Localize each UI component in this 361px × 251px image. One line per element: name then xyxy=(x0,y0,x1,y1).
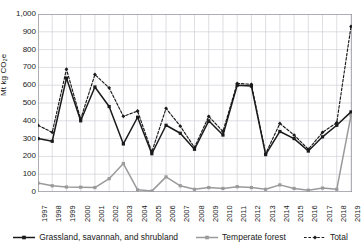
data-point xyxy=(193,148,196,151)
x-axis-tick-label: 2011 xyxy=(240,206,248,222)
data-point xyxy=(136,188,139,191)
data-point xyxy=(207,186,210,189)
legend-marker-icon xyxy=(13,233,35,242)
data-point xyxy=(93,85,96,88)
x-axis-tick-label: 1997 xyxy=(41,205,49,222)
x-axis-tick-label: 2002 xyxy=(112,205,120,222)
y-axis-ticks: 01002003004005006007008009001,000 xyxy=(0,0,36,210)
legend-marker-icon xyxy=(196,233,218,242)
data-point xyxy=(65,76,68,79)
x-axis-tick-label: 2017 xyxy=(326,205,334,222)
chart-svg xyxy=(38,14,352,192)
data-point xyxy=(221,187,224,190)
legend-item: Total xyxy=(304,232,348,242)
x-axis-tick-label: 2016 xyxy=(311,205,319,222)
y-axis-tick-label: 300 xyxy=(4,135,36,143)
x-axis-tick-label: 2012 xyxy=(254,205,262,222)
x-axis-tick-label: 2009 xyxy=(212,205,220,222)
data-point xyxy=(108,105,111,108)
data-point xyxy=(207,119,210,122)
y-axis-tick-label: 1,000 xyxy=(4,10,36,18)
data-point xyxy=(221,133,224,136)
data-point xyxy=(349,114,352,117)
x-axis-tick-label: 2019 xyxy=(354,205,361,222)
data-point xyxy=(122,162,125,165)
data-point xyxy=(122,142,125,145)
y-axis-tick-label: 200 xyxy=(4,152,36,160)
data-point xyxy=(164,124,167,127)
data-point xyxy=(307,189,310,192)
legend-label: Grassland, savannah, and shrubland xyxy=(39,232,178,242)
data-point xyxy=(136,116,139,119)
data-point xyxy=(150,190,153,192)
legend-label: Temperate forest xyxy=(222,232,286,242)
x-axis-tick-label: 2007 xyxy=(183,205,191,222)
y-axis-tick-label: 0 xyxy=(4,188,36,196)
data-point xyxy=(250,84,253,87)
data-point xyxy=(51,184,54,187)
x-axis-tick-label: 2004 xyxy=(141,205,149,222)
data-point xyxy=(236,84,239,87)
y-axis-tick-label: 100 xyxy=(4,170,36,178)
data-point xyxy=(278,183,281,186)
x-axis-tick-label: 1999 xyxy=(69,205,77,222)
data-point xyxy=(79,186,82,189)
data-point xyxy=(93,186,96,189)
x-axis-tick-label: 2001 xyxy=(98,205,106,222)
data-point xyxy=(335,124,338,127)
data-point xyxy=(108,177,111,180)
x-axis-ticks: 1997199819992000200120022003200420052006… xyxy=(38,196,352,226)
data-point xyxy=(278,130,281,133)
legend-marker-icon xyxy=(304,233,326,242)
data-point xyxy=(349,110,352,113)
data-point xyxy=(335,188,338,191)
x-axis-tick-label: 2000 xyxy=(84,205,92,222)
data-point xyxy=(193,188,196,191)
y-axis-tick-label: 700 xyxy=(4,63,36,71)
data-point xyxy=(292,137,295,140)
x-axis-tick-label: 2013 xyxy=(269,205,277,222)
legend-item: Grassland, savannah, and shrubland xyxy=(13,232,178,242)
data-point xyxy=(321,135,324,138)
data-point xyxy=(79,119,82,122)
y-axis-tick-label: 800 xyxy=(4,46,36,54)
y-axis-tick-label: 600 xyxy=(4,81,36,89)
data-point xyxy=(38,182,40,185)
x-axis-tick-label: 2005 xyxy=(155,205,163,222)
chart-container: Mt kg CO₂e 01002003004005006007008009001… xyxy=(0,0,361,251)
y-axis-tick-label: 500 xyxy=(4,99,36,107)
data-point xyxy=(150,152,153,155)
y-axis-tick-label: 900 xyxy=(4,28,36,36)
x-axis-tick-label: 2014 xyxy=(283,205,291,222)
x-axis-tick-label: 2018 xyxy=(340,205,348,222)
data-point xyxy=(38,137,40,140)
x-axis-tick-label: 1998 xyxy=(55,205,63,222)
legend-label: Total xyxy=(330,232,348,242)
data-point xyxy=(321,186,324,189)
x-axis-tick-label: 2010 xyxy=(226,205,234,222)
data-point xyxy=(236,185,239,188)
x-axis-tick-label: 2008 xyxy=(198,205,206,222)
data-point xyxy=(179,184,182,187)
data-point xyxy=(264,188,267,191)
legend-item: Temperate forest xyxy=(196,232,286,242)
data-point xyxy=(264,153,267,156)
x-axis-tick-label: 2003 xyxy=(126,205,134,222)
data-point xyxy=(51,140,54,143)
chart-legend: Grassland, savannah, and shrublandTemper… xyxy=(0,228,361,246)
data-point xyxy=(250,186,253,189)
data-point xyxy=(179,132,182,135)
data-point xyxy=(65,185,68,188)
data-point xyxy=(164,175,167,178)
plot-area xyxy=(38,14,352,192)
y-axis-tick-label: 400 xyxy=(4,117,36,125)
x-axis-tick-label: 2015 xyxy=(297,205,305,222)
data-point xyxy=(292,187,295,190)
data-point xyxy=(307,149,310,152)
x-axis-tick-label: 2006 xyxy=(169,205,177,222)
